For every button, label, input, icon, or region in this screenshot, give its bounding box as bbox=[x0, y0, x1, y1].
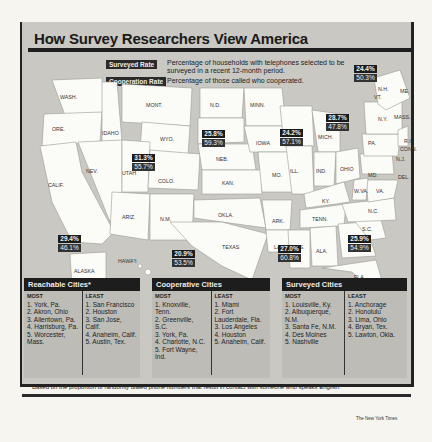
state-label: OHIO bbox=[340, 166, 354, 172]
state-label: IDAHO bbox=[102, 130, 119, 136]
stat-box-plains: 25.8%59.3% bbox=[202, 130, 225, 148]
state-label: N.M. bbox=[160, 216, 171, 222]
state-label: MONT. bbox=[146, 102, 162, 108]
footnote: * Based on the proportion of randomly di… bbox=[28, 384, 341, 390]
least-column: LEAST 1. Anchorage2. Honolulu3. Lima, Oh… bbox=[344, 291, 407, 375]
state-label: ALA. bbox=[316, 248, 327, 254]
most-column: MOST 1. Louisville, Ky.2. Albuquerque, N… bbox=[282, 291, 344, 375]
most-column: MOST 1. Knoxville, Tenn.2. Greenville, S… bbox=[152, 291, 211, 375]
state-label: WASH. bbox=[60, 94, 77, 100]
infographic: How Survey Researchers View America Surv… bbox=[20, 22, 414, 387]
state-label: TEXAS bbox=[222, 244, 239, 250]
panel-title: Reachable Cities* bbox=[24, 278, 140, 291]
state-label: KAN. bbox=[222, 180, 234, 186]
state-label: N.J. bbox=[396, 156, 405, 162]
state-label: N.D. bbox=[210, 102, 221, 108]
state-label: ILL. bbox=[290, 168, 299, 174]
state-label: NEV. bbox=[86, 168, 98, 174]
state-label: VA. bbox=[376, 188, 384, 194]
state-label: TENN. bbox=[312, 216, 328, 222]
panel-title: Surveyed Cities bbox=[282, 278, 407, 291]
state-label: HAWAII bbox=[118, 258, 136, 264]
panel-title: Cooperative Cities bbox=[152, 278, 270, 291]
state-label: OKLA. bbox=[218, 212, 234, 218]
state-label: N.C. bbox=[368, 208, 379, 214]
state-label: WYO. bbox=[160, 136, 174, 142]
state-label: VT. bbox=[374, 94, 382, 100]
bottom-rule bbox=[22, 394, 411, 397]
stat-box-mid-atlantic: 28.7%47.8% bbox=[326, 114, 349, 132]
stat-box-new-england: 24.4%50.3% bbox=[354, 65, 377, 83]
state-label: COLO. bbox=[158, 178, 174, 184]
credit-line: The New York Times bbox=[356, 416, 397, 421]
state-label: MD. bbox=[368, 172, 378, 178]
stat-box-mountain: 31.3%55.7% bbox=[132, 154, 155, 172]
most-column: MOST 1. York, Pa.2. Akron, Ohio3. Allent… bbox=[24, 291, 82, 375]
stat-box-west: 29.4%46.1% bbox=[58, 235, 81, 253]
state-label: CALIF. bbox=[48, 182, 64, 188]
least-column: LEAST 1. San Francisco2. Houston3. San J… bbox=[82, 291, 141, 375]
panel-surveyed-cities: Surveyed Cities MOST 1. Louisville, Ky.2… bbox=[282, 278, 407, 378]
stat-box-texas: 20.9%53.5% bbox=[172, 250, 195, 268]
state-label: N.Y. bbox=[378, 116, 388, 122]
state-label: MINN. bbox=[250, 102, 265, 108]
state-label: CONN. bbox=[400, 146, 417, 152]
state-label: NEB. bbox=[216, 156, 228, 162]
state-label: PA. bbox=[368, 140, 376, 146]
state-label: MO. bbox=[272, 172, 282, 178]
stat-box-midwest: 24.2%57.1% bbox=[280, 129, 303, 147]
state-label: DEL. bbox=[398, 174, 410, 180]
state-label: ORE. bbox=[52, 126, 65, 132]
state-label: ARK. bbox=[272, 218, 284, 224]
state-label: MICH. bbox=[318, 134, 333, 140]
state-label: W.VA. bbox=[354, 188, 368, 194]
state-label: R.I. bbox=[404, 138, 412, 144]
stat-box-southeast: 25.9%54.9% bbox=[348, 235, 371, 253]
panel-cooperative-cities: Cooperative Cities MOST 1. Knoxville, Te… bbox=[152, 278, 270, 378]
state-label: MASS. bbox=[394, 114, 410, 120]
state-label: ME. bbox=[400, 88, 409, 94]
least-column: LEAST 1. Miami2. Fort Lauderdale, Fla.3.… bbox=[211, 291, 271, 375]
state-label: N.H. bbox=[378, 86, 389, 92]
state-label: KY. bbox=[322, 198, 330, 204]
state-label: ALASKA bbox=[74, 268, 95, 274]
state-label: S.C. bbox=[362, 226, 372, 232]
state-label: IND. bbox=[316, 168, 327, 174]
panel-reachable-cities: Reachable Cities* MOST 1. York, Pa.2. Ak… bbox=[24, 278, 140, 378]
state-label: IOWA bbox=[256, 140, 270, 146]
stat-box-south: 27.0%60.8% bbox=[278, 245, 301, 263]
state-label: ARIZ. bbox=[122, 214, 136, 220]
